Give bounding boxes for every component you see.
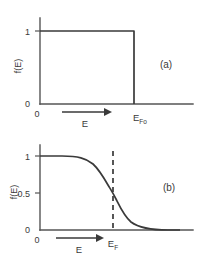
panel-a-origin-label: 0 bbox=[34, 109, 39, 119]
panel-b-fermi-label-sub: F bbox=[114, 244, 118, 251]
chart-panel-b: 1 0.5 0 0 f(E) E EF (b) bbox=[0, 125, 201, 259]
panel-b-x-arrow-label: E bbox=[76, 244, 82, 255]
panel-a-energy-arrow-head bbox=[104, 108, 112, 116]
panel-b-ytick-0: 0 bbox=[25, 225, 30, 235]
panel-b-origin-label: 0 bbox=[34, 235, 39, 245]
panel-a-tag: (a) bbox=[160, 59, 172, 70]
panel-a-y-axis-label: f(E) bbox=[13, 59, 23, 74]
panel-b-energy-arrow-head bbox=[96, 234, 104, 242]
panel-a-fermi-label-sub: Fo bbox=[139, 118, 147, 125]
panel-a-ytick-1: 1 bbox=[25, 27, 30, 37]
panel-a-svg: 1 0 0 f(E) E EFo (a) bbox=[0, 0, 201, 130]
fermi-dirac-figure: 1 0 0 f(E) E EFo (a) bbox=[0, 0, 201, 259]
panel-b-fermi-label: EF bbox=[108, 238, 118, 251]
panel-b-y-axis-label: f(E) bbox=[9, 185, 19, 200]
panel-b-ytick-half: 0.5 bbox=[17, 189, 30, 199]
chart-panel-a: 1 0 0 f(E) E EFo (a) bbox=[0, 0, 201, 130]
panel-a-step-curve bbox=[40, 31, 134, 104]
panel-b-fermi-curve bbox=[40, 156, 180, 230]
panel-b-ytick-1: 1 bbox=[25, 152, 30, 162]
panel-b-svg: 1 0.5 0 0 f(E) E EF (b) bbox=[0, 125, 201, 259]
panel-a-fermi-label: EFo bbox=[133, 112, 147, 125]
panel-b-tag: (b) bbox=[163, 182, 175, 193]
panel-a-ytick-0: 0 bbox=[25, 99, 30, 109]
